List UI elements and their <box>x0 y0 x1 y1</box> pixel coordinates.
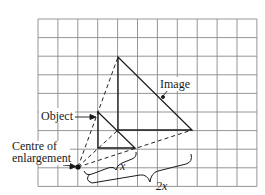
centre-label-line2: enlargement <box>12 151 72 165</box>
distance-x-label: x <box>119 159 126 173</box>
image-label: Image <box>160 77 190 91</box>
distance-2x-label: 2x <box>156 179 168 193</box>
image-arrow-dot <box>162 96 165 99</box>
brace-x <box>84 152 136 175</box>
object-label: Object <box>41 109 74 123</box>
brace-2x <box>87 154 191 183</box>
enlargement-diagram: Object Image Centre of enlargement x 2x <box>0 0 265 195</box>
centre-of-enlargement-point <box>75 164 80 169</box>
